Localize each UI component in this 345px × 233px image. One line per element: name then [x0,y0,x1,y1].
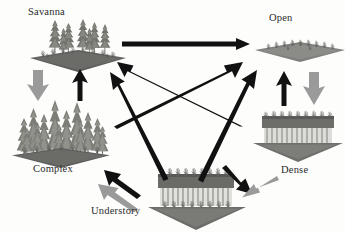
arrow-open-to-dense [303,72,325,105]
arrow-understory-to-open [198,70,257,183]
arrow-savanna-to-open [122,38,250,50]
arrow-dense-to-open [276,71,292,106]
node-label-dense: Dense [281,164,308,175]
node-label-savanna: Savanna [28,6,65,17]
diagram-svg [0,0,345,233]
arrow-savanna-to-complex [27,70,49,101]
state-image-complex [12,100,110,168]
node-label-understory: Understory [91,205,140,216]
state-image-dense [253,111,343,162]
state-image-open [255,40,345,62]
diagram-canvas: Savanna Open Complex Dense Understory [0,0,345,233]
arrow-complex-to-open [114,62,243,129]
node-label-open: Open [269,12,293,23]
arrow-complex-to-savanna [72,69,88,101]
node-label-complex: Complex [33,163,73,174]
state-image-savanna [30,19,126,72]
